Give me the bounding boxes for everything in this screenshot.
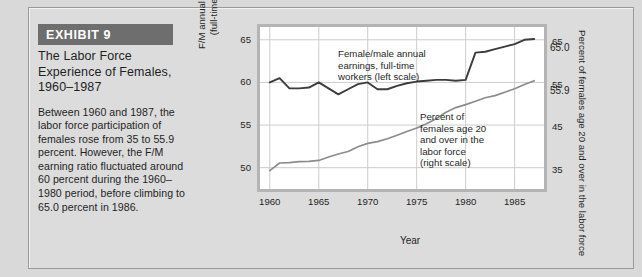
earnings-series-annotation: Female/male annualearnings, full-timewor…	[338, 48, 426, 83]
x-axis-tick-label: 1980	[446, 196, 486, 207]
participation-series-annotation-line-2: females age 20	[420, 123, 486, 135]
left-axis-title-line-2: (full-time workers)	[208, 0, 220, 56]
exhibit-body-text: Between 1960 and 1987, the labor force p…	[38, 106, 190, 215]
participation-series-annotation-line-4: labor force	[420, 146, 486, 158]
left-axis-tick-label: 55	[227, 119, 251, 130]
participation-end-value-label: 55.9	[550, 85, 569, 96]
left-axis-tick-label: 60	[227, 76, 251, 87]
x-axis-tick-label: 1965	[299, 196, 339, 207]
x-axis-tick-label: 1975	[397, 196, 437, 207]
participation-series-annotation: Percent offemales age 20and over in thel…	[420, 111, 486, 169]
exhibit-title-line-3: 1960–1987	[38, 80, 193, 96]
series-line-2	[270, 81, 534, 171]
left-axis-title-line-1: F/M annual earning ratio	[196, 0, 208, 56]
exhibit-figure: EXHIBIT 9 The Labor Force Experience of …	[0, 0, 642, 277]
earnings-series-annotation-line-3: workers (left scale)	[338, 71, 426, 83]
participation-series-annotation-line-3: and over in the	[420, 134, 486, 146]
x-axis-tick-label: 1970	[348, 196, 388, 207]
chart: F/M annual earning ratio (full-time work…	[200, 18, 620, 258]
left-axis-tick-label: 65	[227, 34, 251, 45]
x-axis-tick-label: 1985	[495, 196, 535, 207]
exhibit-title: The Labor Force Experience of Females, 1…	[38, 49, 193, 96]
exhibit-number-label: EXHIBIT 9	[46, 28, 111, 42]
right-axis-tick-label: 45	[552, 121, 576, 132]
left-axis-tick-label: 50	[227, 162, 251, 173]
earnings-series-annotation-line-2: earnings, full-time	[338, 60, 426, 72]
participation-series-annotation-line-1: Percent of	[420, 111, 486, 123]
right-axis-title: Percent of females age 20 and over in th…	[577, 30, 589, 180]
exhibit-text-panel: EXHIBIT 9 The Labor Force Experience of …	[38, 24, 188, 244]
earnings-series-annotation-line-1: Female/male annual	[338, 48, 426, 60]
exhibit-title-line-2: Experience of Females,	[38, 65, 193, 81]
x-axis-tick-label: 1960	[250, 196, 290, 207]
x-axis-title: Year	[260, 235, 560, 246]
earnings-end-value-label: 65.0	[550, 42, 569, 53]
left-axis-title: F/M annual earning ratio (full-time work…	[196, 0, 219, 56]
participation-series-annotation-line-5: (right scale)	[420, 157, 486, 169]
exhibit-title-line-1: The Labor Force	[38, 49, 193, 65]
right-axis-tick-label: 35	[552, 164, 576, 175]
exhibit-number-band: EXHIBIT 9	[38, 24, 173, 45]
